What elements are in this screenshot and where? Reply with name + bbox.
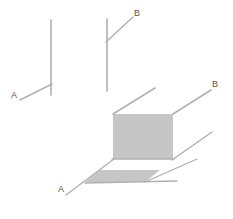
vertical-face-gray [113, 114, 173, 159]
figure-canvas: A B B A [0, 0, 233, 219]
label-left-a: A [11, 90, 17, 100]
label-main-b: B [212, 79, 218, 89]
isometric-diagram-svg: A B B A [0, 0, 233, 219]
label-middle-b: B [134, 8, 140, 18]
label-main-a: A [58, 184, 64, 194]
